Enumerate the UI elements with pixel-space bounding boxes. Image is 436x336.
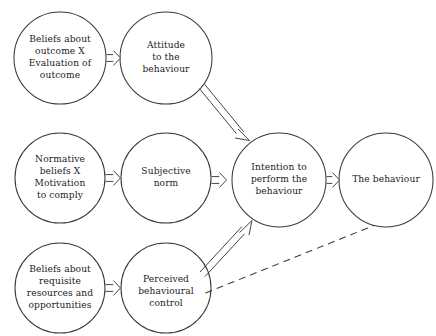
node-attitude[interactable] — [120, 12, 212, 104]
node-normative-beliefs[interactable] — [15, 133, 105, 223]
node-the-behaviour[interactable] — [339, 133, 433, 227]
edge-beliefs-outcome-to-attitude — [107, 51, 121, 66]
diagram-canvas — [0, 0, 436, 336]
node-intention[interactable] — [232, 133, 326, 227]
node-subjective-norm[interactable] — [121, 133, 211, 223]
edge-attitude-to-intention — [199, 84, 249, 140]
edge-subjective-norm-to-intention — [212, 173, 227, 188]
edge-perceived-control-to-intention — [200, 221, 252, 277]
edge-beliefs-resources-to-perceived-control — [106, 281, 121, 296]
edge-perceived-control-to-the-behaviour-dashed — [206, 226, 375, 294]
node-beliefs-outcome[interactable] — [14, 12, 106, 104]
node-beliefs-resources[interactable] — [15, 243, 105, 333]
theory-of-planned-behaviour-diagram: Beliefs aboutoutcome XEvaluation ofoutco… — [0, 0, 436, 336]
edge-intention-to-the-behaviour — [327, 173, 340, 188]
edge-normative-beliefs-to-subjective-norm — [106, 171, 121, 186]
node-perceived-control[interactable] — [121, 243, 211, 333]
